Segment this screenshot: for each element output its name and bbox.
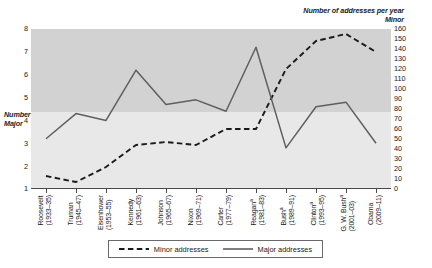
series-line-major-addresses xyxy=(46,47,376,148)
x-axis-tick-label-name: Kennedy xyxy=(127,195,135,226)
x-axis-tick-mark xyxy=(166,189,167,193)
x-axis-tick-label: Eisenhower(1953–55) xyxy=(97,195,113,230)
x-axis-tick-label-years: (1945–47) xyxy=(75,195,83,226)
left-axis-tick-label: 6 xyxy=(16,71,28,78)
x-axis-tick-label-name: Nixon xyxy=(187,195,195,226)
x-axis-tick-label-years: (2001–03) xyxy=(348,195,356,232)
minor-axis-title: Number of addresses per year Minor xyxy=(303,6,404,24)
x-axis-tick-mark xyxy=(286,189,287,193)
minor-axis-title-line1: Number of addresses per year xyxy=(303,6,404,15)
series-container xyxy=(31,29,391,189)
x-axis-tick-label: Kennedy(1961–63) xyxy=(127,195,143,226)
x-axis-tick-label-years: (1953–55) xyxy=(105,195,113,230)
x-axis-tick-label-years: (1965–67) xyxy=(165,195,173,226)
right-axis-tick-label: 70 xyxy=(394,115,402,122)
x-axis-tick-label-name: Carter xyxy=(217,195,225,226)
x-axis-tick-label-footnote: a xyxy=(338,195,344,198)
x-axis-tick-label-years: (1981–83) xyxy=(258,195,266,226)
x-axis-tick-label-years: (1993–95) xyxy=(318,195,326,226)
right-axis-tick-label: 20 xyxy=(394,165,402,172)
right-axis-tick-label: 120 xyxy=(394,65,406,72)
legend-swatch-dashed-icon xyxy=(119,246,149,252)
x-axis-tick-mark xyxy=(256,189,257,193)
x-axis-tick-mark xyxy=(346,189,347,193)
x-axis-tick-label-footnote: a xyxy=(278,208,284,211)
x-axis-tick-label-name: Clintona xyxy=(307,195,318,226)
right-axis-tick-label: 160 xyxy=(394,25,406,32)
right-axis-tick-label: 80 xyxy=(394,105,402,112)
chart-root: Number of addresses per year Minor Numbe… xyxy=(0,0,432,268)
left-axis-tick-label: 7 xyxy=(16,48,28,55)
x-axis-tick-label-name: Johnson xyxy=(157,195,165,226)
right-axis-tick-label: 30 xyxy=(394,155,402,162)
right-axis-tick-label: 140 xyxy=(394,45,406,52)
chart-legend: Minor addresses Major addresses xyxy=(108,240,323,258)
right-axis-tick-label: 130 xyxy=(394,55,406,62)
x-axis-tick-mark xyxy=(226,189,227,193)
x-axis-tick-mark xyxy=(76,189,77,193)
x-axis-tick-label-name: G. W. Busha xyxy=(337,195,348,232)
x-axis-tick-label-name: Reagana xyxy=(247,195,258,226)
legend-item-major-addresses: Major addresses xyxy=(223,245,313,254)
legend-item-minor-addresses: Minor addresses xyxy=(119,245,209,254)
plot-area xyxy=(31,29,391,189)
right-axis-tick-label: 100 xyxy=(394,85,406,92)
right-axis-tick-label: 150 xyxy=(394,35,406,42)
x-axis-tick-label-name: Eisenhower xyxy=(97,195,105,230)
x-axis-tick-label-years: (1977–79) xyxy=(225,195,233,226)
left-axis-tick-label: 2 xyxy=(16,163,28,170)
x-axis-tick-label-name: Truman xyxy=(67,195,75,226)
right-axis-tick-label: 60 xyxy=(394,125,402,132)
left-axis-tick-label: 5 xyxy=(16,94,28,101)
left-axis-tick-label: 4 xyxy=(16,117,28,124)
left-axis-tick-label: 3 xyxy=(16,140,28,147)
x-axis-tick-label: Carter(1977–79) xyxy=(217,195,233,226)
x-axis-tick-mark xyxy=(316,189,317,193)
x-axis-tick-label-footnote: a xyxy=(248,199,254,202)
x-axis-tick-label: Nixon(1969–71) xyxy=(187,195,203,226)
series-line-minor-addresses xyxy=(46,34,376,182)
right-axis-tick-label: 0 xyxy=(394,185,398,192)
x-axis-tick-mark xyxy=(106,189,107,193)
right-axis-tick-label: 10 xyxy=(394,175,402,182)
x-axis-tick-label-years: (1969–71) xyxy=(195,195,203,226)
x-axis-tick-label: Roosevelt(1933–35) xyxy=(37,195,53,226)
x-axis-tick-label-years: (1961–63) xyxy=(135,195,143,226)
left-axis-tick-label: 1 xyxy=(16,185,28,192)
x-axis-tick-label: Truman(1945–47) xyxy=(67,195,83,226)
x-axis-tick-label: Obama(2009–11) xyxy=(367,195,383,225)
right-axis-tick-label: 50 xyxy=(394,135,402,142)
x-axis-tick-label-name: Obama xyxy=(367,195,375,225)
x-axis-tick-mark xyxy=(376,189,377,193)
x-axis-tick-label: Reagana(1981–83) xyxy=(247,195,266,226)
left-axis-tick-label: 8 xyxy=(16,25,28,32)
x-axis-tick-label: Busha(1989–91) xyxy=(277,195,296,226)
x-axis-tick-label-years: (1989–91) xyxy=(288,195,296,226)
legend-label-minor-addresses: Minor addresses xyxy=(154,245,209,254)
x-axis-tick-mark xyxy=(136,189,137,193)
x-axis-tick-label-name: Busha xyxy=(277,195,288,226)
legend-swatch-solid-icon xyxy=(223,246,253,252)
x-axis-tick-label: Clintona(1993–95) xyxy=(307,195,326,226)
x-axis-tick-mark xyxy=(46,189,47,193)
minor-axis-title-line2: Minor xyxy=(303,15,404,24)
right-axis-tick-label: 90 xyxy=(394,95,402,102)
x-axis-tick-label-name: Roosevelt xyxy=(37,195,45,226)
x-axis-tick-label-years: (1933–35) xyxy=(45,195,53,226)
x-axis-tick-label-footnote: a xyxy=(308,202,314,205)
x-axis-tick-mark xyxy=(196,189,197,193)
right-axis-tick-label: 40 xyxy=(394,145,402,152)
legend-label-major-addresses: Major addresses xyxy=(258,245,313,254)
x-axis-tick-label-years: (2009–11) xyxy=(375,195,383,225)
x-axis-tick-label: Johnson(1965–67) xyxy=(157,195,173,226)
x-axis-tick-label: G. W. Busha(2001–03) xyxy=(337,195,356,232)
right-axis-tick-label: 110 xyxy=(394,75,406,82)
